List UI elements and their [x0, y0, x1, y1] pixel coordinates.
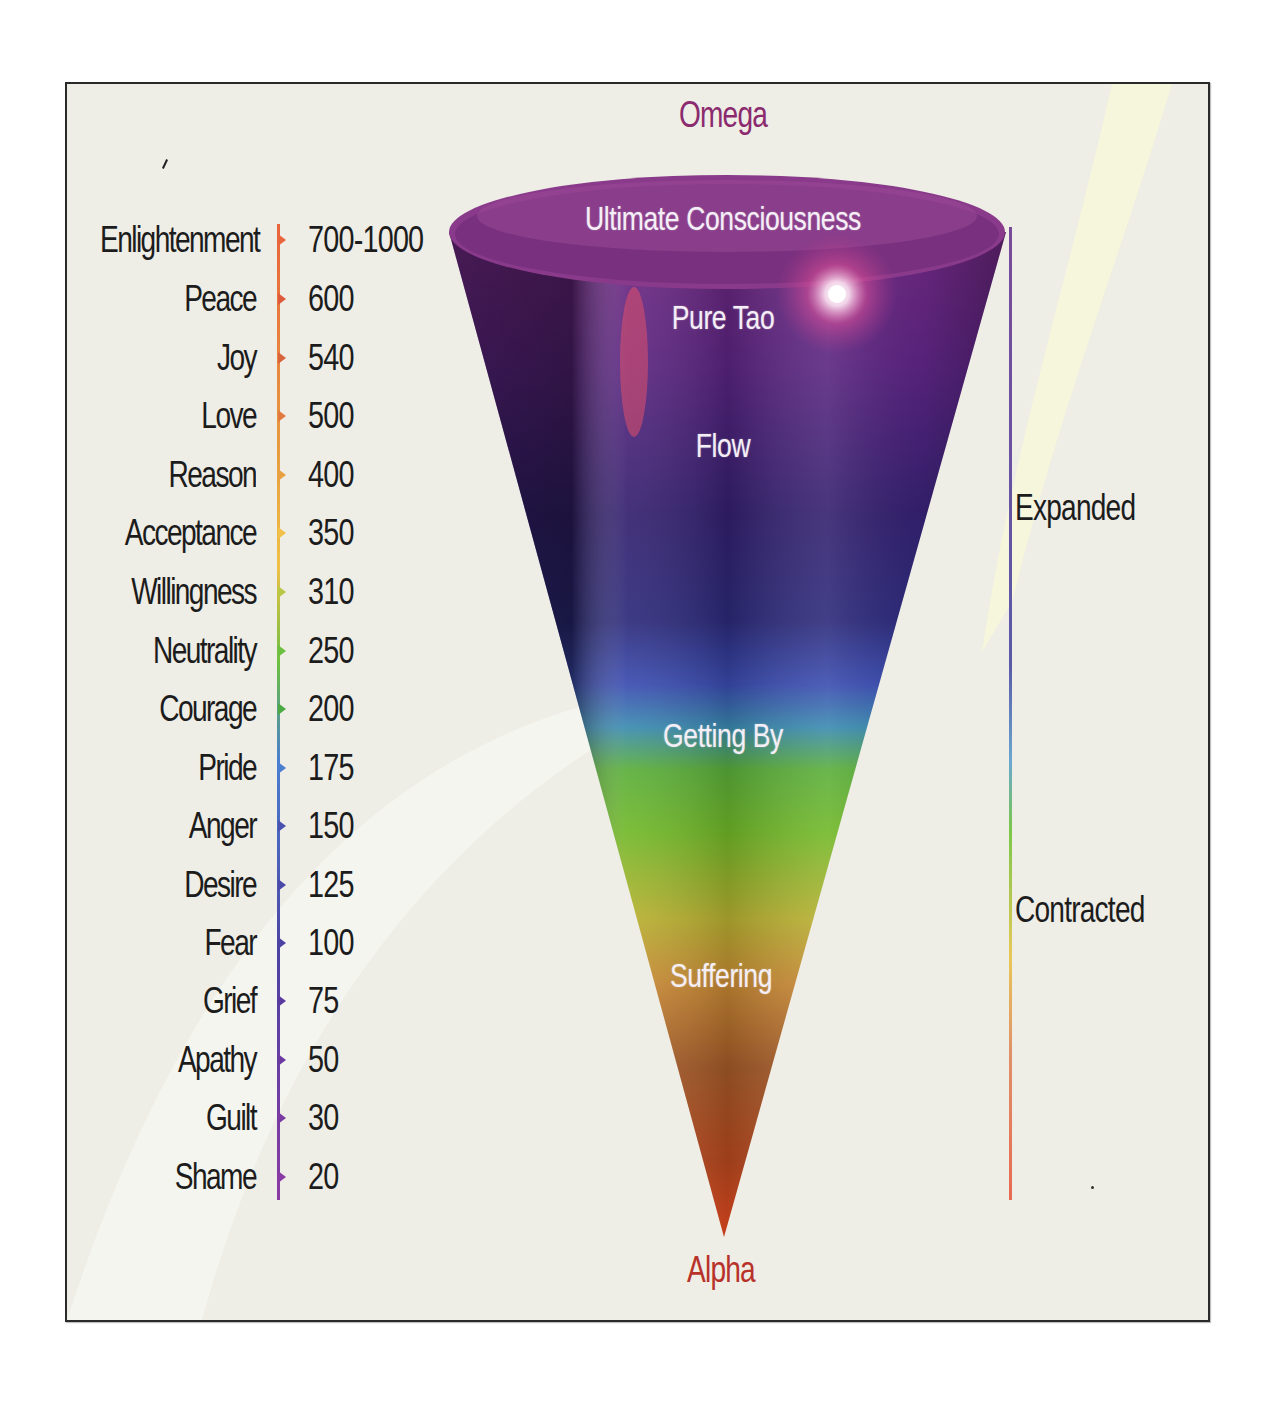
scale-level-apathy: Apathy: [100, 1040, 256, 1080]
contracted-label: Contracted: [1015, 890, 1145, 930]
scale-value-neutrality: 250: [308, 631, 354, 671]
omega-label: Omega: [679, 95, 767, 135]
tick-marker-icon: [278, 879, 286, 891]
tick-marker-icon: [278, 1054, 286, 1066]
scale-value-reason: 400: [308, 455, 354, 495]
alpha-label: Alpha: [687, 1250, 755, 1290]
cone-label-pure-tao: Pure Tao: [672, 297, 775, 337]
scale-level-willingness: Willingness: [100, 572, 256, 612]
tick-marker-icon: [278, 527, 286, 539]
scale-value-peace: 600: [308, 279, 354, 319]
scale-level-neutrality: Neutrality: [100, 631, 256, 671]
scale-value-grief: 75: [308, 981, 338, 1021]
scale-level-peace: Peace: [100, 279, 256, 319]
scale-value-willingness: 310: [308, 572, 354, 612]
scale-value-desire: 125: [308, 865, 354, 905]
scale-value-anger: 150: [308, 806, 354, 846]
scale-level-love: Love: [100, 396, 256, 436]
scale-level-grief: Grief: [100, 981, 256, 1021]
scale-value-pride: 175: [308, 748, 354, 788]
tick-marker-icon: [278, 1112, 286, 1124]
scale-level-shame: Shame: [100, 1157, 256, 1197]
scale-value-guilt: 30: [308, 1098, 338, 1138]
scale-level-pride: Pride: [100, 748, 256, 788]
scale-level-courage: Courage: [100, 689, 256, 729]
scale-level-fear: Fear: [100, 923, 256, 963]
scale-value-fear: 100: [308, 923, 354, 963]
expanded-label: Expanded: [1015, 488, 1135, 528]
scale-value-joy: 540: [308, 338, 354, 378]
scale-level-anger: Anger: [100, 806, 256, 846]
tick-marker-icon: [278, 762, 286, 774]
tick-marker-icon: [278, 820, 286, 832]
cone-label-flow: Flow: [696, 425, 750, 465]
scale-value-shame: 20: [308, 1157, 338, 1197]
scale-level-reason: Reason: [100, 455, 256, 495]
scale-level-acceptance: Acceptance: [100, 513, 256, 553]
stray-dot: [1091, 1186, 1094, 1189]
tick-marker-icon: [278, 410, 286, 422]
cone-label-suffering: Suffering: [670, 955, 772, 995]
tick-marker-icon: [278, 352, 286, 364]
cone-label-ultimate-consciousness: Ultimate Consciousness: [585, 198, 861, 238]
tick-marker-icon: [278, 293, 286, 305]
cone-label-getting-by: Getting By: [663, 715, 783, 755]
tick-marker-icon: [278, 995, 286, 1007]
scale-value-apathy: 50: [308, 1040, 338, 1080]
tick-marker-icon: [278, 469, 286, 481]
scale-level-guilt: Guilt: [100, 1098, 256, 1138]
tick-marker-icon: [278, 1171, 286, 1183]
scale-value-acceptance: 350: [308, 513, 354, 553]
scale-level-desire: Desire: [100, 865, 256, 905]
scale-level-joy: Joy: [100, 338, 256, 378]
tick-marker-icon: [278, 234, 286, 246]
scale-value-enlightenment: 700-1000: [308, 220, 423, 260]
tick-marker-icon: [278, 645, 286, 657]
tick-marker-icon: [278, 937, 286, 949]
scale-level-enlightenment: Enlightenment: [100, 220, 256, 260]
tick-marker-icon: [278, 703, 286, 715]
scale-value-courage: 200: [308, 689, 354, 729]
scale-value-love: 500: [308, 396, 354, 436]
tick-marker-icon: [278, 586, 286, 598]
